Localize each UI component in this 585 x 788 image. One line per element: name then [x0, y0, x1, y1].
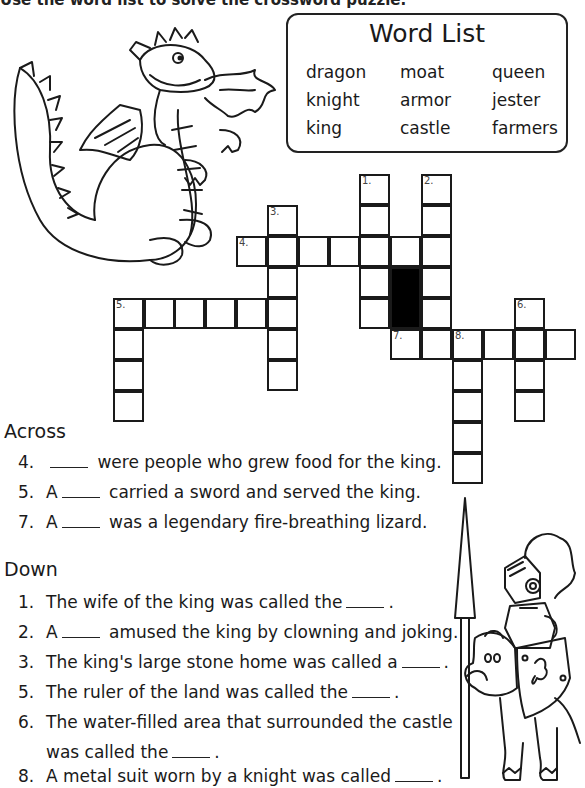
crossword-cell[interactable] [452, 422, 483, 453]
clue-number-label: 5. [116, 299, 126, 310]
crossword-cell[interactable] [514, 360, 545, 391]
crossword-cell[interactable] [144, 298, 175, 329]
down-clue-5: 5.The ruler of the land was called the. [18, 682, 399, 702]
word-list-box: Word List dragon moat queen knight armor… [286, 13, 568, 153]
clue-text-pre: The water-filled area that surrounded th… [46, 712, 453, 732]
clue-text: carried a sword and served the king. [109, 482, 421, 502]
across-clue-4: 4. were people who grew food for the kin… [18, 452, 442, 472]
clue-text: amused the king by clowning and joking. [109, 622, 458, 642]
answer-blank [346, 606, 384, 608]
clue-number-label: 2. [424, 175, 434, 186]
crossword-cell[interactable] [267, 298, 298, 329]
clue-number-label: 4. [239, 237, 249, 248]
down-clue-6-cont: was called the. [18, 742, 220, 762]
crossword-cell[interactable] [421, 267, 452, 298]
clue-text-pre: was called the [46, 742, 168, 762]
crossword-cell[interactable] [421, 236, 452, 267]
clue-text: . [214, 742, 219, 762]
crossword-cell[interactable] [359, 236, 390, 267]
crossword-cell[interactable] [267, 236, 298, 267]
clue-text: . [394, 682, 399, 702]
clue-number-label: 6. [517, 299, 527, 310]
crossword-cell[interactable] [421, 205, 452, 236]
down-heading: Down [4, 558, 58, 580]
across-clue-5: 5.A carried a sword and served the king. [18, 482, 421, 502]
answer-blank [402, 666, 440, 668]
crossword-cell[interactable] [452, 391, 483, 422]
clue-text-pre: A [46, 512, 58, 532]
word: castle [400, 115, 492, 141]
word-list-title: Word List [288, 19, 566, 48]
clue-text-pre: The wife of the king was called the [46, 592, 342, 612]
answer-blank [62, 636, 100, 638]
crossword-cell[interactable] [236, 298, 267, 329]
clue-text: . [388, 592, 393, 612]
across-heading: Across [4, 420, 66, 442]
blocked-cell [390, 267, 421, 329]
crossword-cell[interactable] [329, 236, 360, 267]
answer-blank [172, 756, 210, 758]
clue-number-label: 3. [270, 206, 280, 217]
crossword-cell[interactable] [298, 236, 329, 267]
crossword-cell[interactable] [514, 391, 545, 422]
down-clue-1: 1.The wife of the king was called the. [18, 592, 394, 612]
clue-text: . [437, 766, 442, 786]
clue-number-label: 1. [362, 175, 372, 186]
crossword-cell[interactable] [113, 329, 144, 360]
word: jester [492, 87, 578, 113]
clue-text-pre: A metal suit worn by a knight was called [46, 766, 391, 786]
crossword-cell[interactable] [359, 205, 390, 236]
clue-number: 7. [18, 512, 46, 532]
crossword-cell[interactable] [267, 267, 298, 298]
clue-text: were people who grew food for the king. [97, 452, 441, 472]
crossword-cell[interactable] [359, 267, 390, 298]
crossword-cell[interactable] [359, 298, 390, 329]
down-clue-2: 2.A amused the king by clowning and joki… [18, 622, 458, 642]
clue-number-label: 8. [455, 330, 465, 341]
down-clue-3: 3.The king's large stone home was called… [18, 652, 449, 672]
word: queen [492, 59, 578, 85]
answer-blank [352, 696, 390, 698]
word: armor [400, 87, 492, 113]
clue-text-pre: A [46, 482, 58, 502]
instructions: Use the word list to solve the crossword… [0, 0, 406, 9]
crossword-cell[interactable] [113, 360, 144, 391]
word: knight [306, 87, 400, 113]
crossword-cell[interactable] [205, 298, 236, 329]
word: dragon [306, 59, 400, 85]
clue-text-pre: A [46, 622, 58, 642]
clue-number: 5. [18, 682, 46, 702]
crossword-cell[interactable] [421, 329, 452, 360]
crossword-cell[interactable] [390, 236, 421, 267]
answer-blank [50, 466, 88, 468]
crossword-cell[interactable] [421, 298, 452, 329]
crossword-cell[interactable] [452, 360, 483, 391]
down-clue-6: 6.The water-filled area that surrounded … [18, 712, 453, 732]
clue-text-pre: The ruler of the land was called the [46, 682, 348, 702]
crossword-cell[interactable] [113, 391, 144, 422]
knight-on-horse-illustration-icon [445, 488, 585, 788]
crossword-cell[interactable] [174, 298, 205, 329]
crossword-cell[interactable] [483, 329, 514, 360]
clue-number: 3. [18, 652, 46, 672]
crossword-cell[interactable] [267, 329, 298, 360]
crossword-cell[interactable] [452, 453, 483, 484]
clue-number: 4. [18, 452, 46, 472]
clue-number: 6. [18, 712, 46, 732]
answer-blank [395, 780, 433, 782]
across-clue-7: 7.A was a legendary fire-breathing lizar… [18, 512, 427, 532]
word: king [306, 115, 400, 141]
clue-number: 8. [18, 766, 46, 786]
answer-blank [62, 526, 100, 528]
crossword-cell[interactable] [514, 329, 545, 360]
clue-number: 1. [18, 592, 46, 612]
word-list-grid: dragon moat queen knight armor jester ki… [306, 59, 558, 141]
clue-number: 5. [18, 482, 46, 502]
word: farmers [492, 115, 578, 141]
clue-number: 2. [18, 622, 46, 642]
word: moat [400, 59, 492, 85]
crossword-cell[interactable] [267, 360, 298, 391]
clue-text-pre: The king's large stone home was called a [46, 652, 398, 672]
crossword-cell[interactable] [545, 329, 576, 360]
clue-text: was a legendary fire-breathing lizard. [109, 512, 427, 532]
